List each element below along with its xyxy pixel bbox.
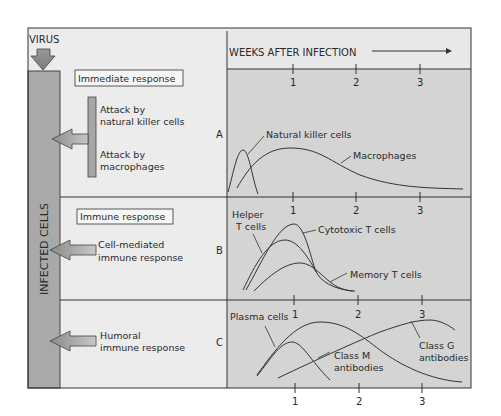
tick-1-b: 1: [290, 205, 296, 216]
class-g-label-2: antibodies: [419, 352, 469, 363]
tick-1-top: 1: [290, 77, 296, 88]
helper-t-cells-label-line2: T cells: [235, 221, 266, 232]
tick-1-bottom: 1: [292, 396, 298, 407]
tick-2-b: 2: [353, 205, 359, 216]
class-g-label-1: Class G: [419, 340, 454, 351]
humoral-label-1: Humoral: [100, 330, 141, 341]
axis-title: WEEKS AFTER INFECTION: [229, 47, 356, 58]
cell-mediated-label-2: immune response: [98, 252, 183, 263]
tick-2-top: 2: [353, 77, 359, 88]
cytotoxic-t-cells-label: Cytotoxic T cells: [318, 224, 396, 235]
immediate-response-label: Immediate response: [78, 73, 176, 84]
tick-1-c: 1: [292, 309, 298, 320]
section-c-letter: C: [216, 337, 223, 348]
macrophage-attack-label-1: Attack by: [100, 149, 145, 160]
tick-2-c: 2: [355, 309, 361, 320]
plasma-cells-label: Plasma cells: [230, 311, 289, 322]
class-m-label-2: antibodies: [334, 362, 384, 373]
class-m-label-1: Class M: [334, 350, 370, 361]
memory-t-cells-label: Memory T cells: [350, 269, 422, 280]
helper-t-cells-label-line1: Helper: [232, 209, 264, 220]
macrophage-attack-label-2: macrophages: [100, 161, 165, 172]
tick-3-top: 3: [417, 77, 423, 88]
section-a-letter: A: [216, 129, 223, 140]
humoral-label-2: immune response: [100, 342, 185, 353]
infected-cells-label: INFECTED CELLS: [38, 203, 51, 295]
section-b-letter: B: [216, 245, 223, 256]
tick-3-c: 3: [419, 309, 425, 320]
tick-3-b: 3: [417, 205, 423, 216]
section-a-bracket-bar: [88, 97, 96, 177]
tick-2-bottom: 2: [356, 396, 362, 407]
nk-attack-label-2: natural killer cells: [100, 116, 185, 127]
natural-killer-cells-label: Natural killer cells: [266, 129, 352, 140]
immune-response-label: Immune response: [80, 211, 166, 222]
immune-response-diagram: INFECTED CELLS VIRUS WEEKS AFTER INFECTI…: [0, 0, 501, 416]
nk-attack-label-1: Attack by: [100, 104, 145, 115]
macrophages-label: Macrophages: [353, 150, 416, 161]
tick-3-bottom: 3: [419, 396, 425, 407]
virus-label: VIRUS: [29, 34, 59, 45]
cell-mediated-label-1: Cell-mediated: [98, 239, 164, 250]
